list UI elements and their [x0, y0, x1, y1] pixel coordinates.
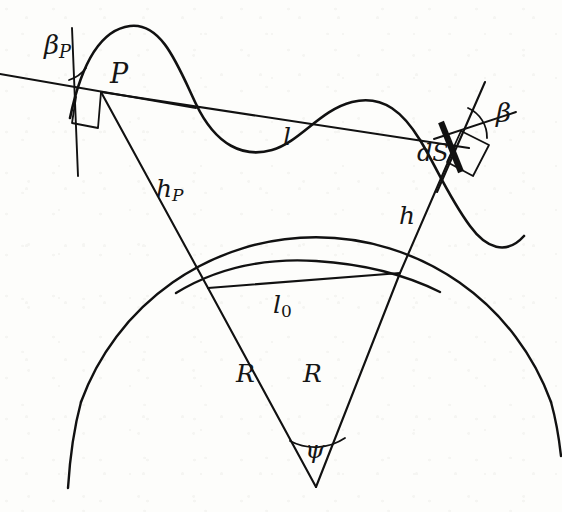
- label-height-h-p: hP: [156, 176, 184, 204]
- label-surface-element: dS: [417, 141, 449, 165]
- label-point-p: P: [110, 60, 128, 87]
- geometry-figure: P βP β l dS hP h l0 R R ψ: [0, 0, 562, 512]
- large-circle-arc-left-tail: [68, 402, 81, 488]
- label-angle-psi: ψ: [305, 437, 325, 462]
- segment-h-p: [101, 92, 208, 288]
- label-chord-l0-sub: 0: [281, 301, 292, 321]
- label-beta-p-sub: P: [59, 42, 71, 62]
- label-height-h-p-main: h: [156, 174, 172, 203]
- label-radius-left: R: [236, 361, 255, 386]
- radius-line-right: [316, 273, 400, 487]
- label-height-h: h: [399, 203, 415, 228]
- label-beta-p: βP: [44, 32, 71, 62]
- chord-line-l0: [208, 273, 400, 288]
- diagram-canvas: [0, 0, 562, 512]
- label-radius-right: R: [303, 361, 322, 386]
- label-height-h-p-sub: P: [172, 185, 183, 205]
- radius-line-left: [208, 288, 316, 487]
- large-circle-arc-right-tail: [551, 402, 561, 456]
- label-beta: β: [496, 100, 511, 126]
- label-chord-l: l: [283, 124, 291, 149]
- label-chord-l0-main: l: [273, 290, 281, 319]
- label-chord-l0: l0: [273, 292, 292, 320]
- label-beta-p-main: β: [44, 30, 59, 60]
